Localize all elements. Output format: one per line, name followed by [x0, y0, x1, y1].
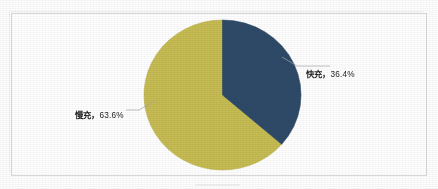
pie-label-slow-percent: 63.6% [99, 111, 123, 120]
pie-label-slow: 慢充，63.6% [75, 111, 124, 120]
pie-label-slow-category: 慢充， [75, 110, 99, 120]
pie-label-fast-percent: 36.4% [330, 70, 354, 79]
pie-label-fast-category: 快充， [306, 69, 330, 79]
pie-chart-plot-area: 快充，36.4% 慢充，63.6% [0, 0, 438, 189]
scan-artifact [195, 184, 240, 186]
pie-label-fast: 快充，36.4% [306, 70, 355, 79]
screenshot-root: 快充，36.4% 慢充，63.6% [0, 0, 438, 189]
pie-chart-svg [0, 0, 438, 189]
